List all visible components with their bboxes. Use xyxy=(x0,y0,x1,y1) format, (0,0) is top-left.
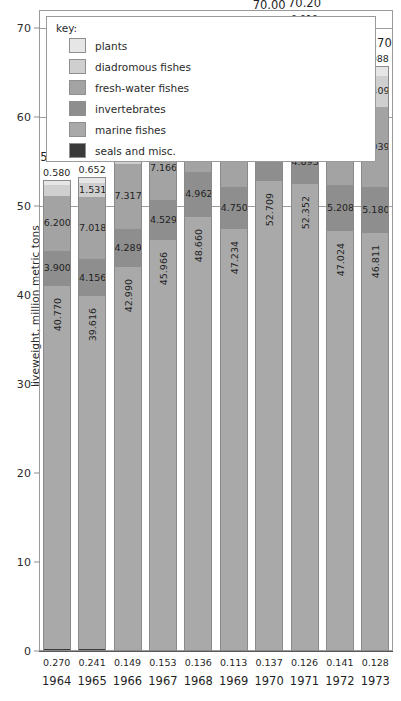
legend-item-plants: plants xyxy=(69,37,127,54)
bar-segment-invertebrates: 4.962 xyxy=(184,172,212,216)
bar-segment-invertebrates: 4.750 xyxy=(220,187,248,229)
segment-value-label: 1.531 xyxy=(79,185,105,195)
segment-value-label: 4.529 xyxy=(150,215,176,225)
bar-segment-invertebrates: 5.180 xyxy=(361,187,389,233)
bar-segment-invertebrates: 4.529 xyxy=(149,200,177,240)
segment-value-label: 47.234 xyxy=(228,241,239,274)
segment-value-label: 46.811 xyxy=(370,245,381,278)
chart-root: liveweight, million metric tons 01020304… xyxy=(0,0,401,701)
bar-segment-plants xyxy=(78,177,106,183)
legend-swatch-icon xyxy=(69,122,86,137)
legend-item-label: fresh-water fishes xyxy=(95,82,189,94)
bar-total-label: 70.20 xyxy=(285,0,325,10)
segment-value-label: 7.018 xyxy=(79,223,105,233)
segment-value-label: 47.024 xyxy=(334,243,345,276)
bar-segment-invertebrates: 4.156 xyxy=(78,259,106,296)
bar-total-label: 70.00 xyxy=(249,0,289,12)
bar-segment-marine-fishes: 39.616 xyxy=(78,296,106,649)
segment-value-label: 4.156 xyxy=(79,273,105,283)
bar-segment-fresh-water-fishes: 7.317 xyxy=(114,164,142,229)
legend-item-seals-and-misc-: seals and misc. xyxy=(69,142,176,159)
legend-swatch-icon xyxy=(69,101,86,116)
segment-value-label: 4.962 xyxy=(185,190,211,200)
segment-value-label: 5.208 xyxy=(327,203,353,213)
bar-segment-marine-fishes: 52.709 xyxy=(255,181,283,650)
legend-item-label: seals and misc. xyxy=(95,145,176,157)
segment-value-label: 3.900 xyxy=(44,264,70,274)
legend-item-label: plants xyxy=(95,40,127,52)
bar-segment-marine-fishes: 47.024 xyxy=(326,231,354,650)
legend-item-fresh-water-fishes: fresh-water fishes xyxy=(69,79,189,96)
bar-segment-marine-fishes: 40.770 xyxy=(43,286,71,649)
segment-value-label: 4.750 xyxy=(221,204,247,214)
legend-title: key: xyxy=(56,22,77,34)
segment-value-label: 4.289 xyxy=(115,243,141,253)
segment-value-label: 6.200 xyxy=(44,219,70,229)
bar-segment-marine-fishes: 48.660 xyxy=(184,217,212,650)
legend-swatch-icon xyxy=(69,80,86,95)
segment-value-label: 40.770 xyxy=(51,298,62,331)
segment-value-label: 42.990 xyxy=(122,279,133,312)
legend-item-diadromous-fishes: diadromous fishes xyxy=(69,58,191,75)
bar-segment-marine-fishes: 47.234 xyxy=(220,229,248,650)
legend-swatch-icon xyxy=(69,38,86,53)
legend-item-label: diadromous fishes xyxy=(95,61,191,73)
legend-swatch-icon xyxy=(69,143,86,158)
bar-segment-invertebrates: 5.208 xyxy=(326,185,354,231)
segment-value-label: 52.709 xyxy=(264,193,275,226)
bar-segment-fresh-water-fishes: 6.200 xyxy=(43,196,71,251)
bar-segment-plants xyxy=(43,180,71,185)
legend-item-marine-fishes: marine fishes xyxy=(69,121,166,138)
bar-segment-marine-fishes: 46.811 xyxy=(361,233,389,650)
segment-value-label: 5.180 xyxy=(362,205,388,215)
bar-segment-marine-fishes: 45.966 xyxy=(149,240,177,649)
bar-segment-diadromous-fishes: 1.531 xyxy=(78,183,106,197)
bar-segment-marine-fishes: 42.990 xyxy=(114,267,142,650)
plants-value-label: 0.652 xyxy=(74,164,110,175)
plants-value-label: 0.580 xyxy=(39,167,75,178)
legend-item-label: invertebrates xyxy=(95,103,166,115)
segment-value-label: 7.166 xyxy=(150,163,176,173)
bar-segment-invertebrates: 3.900 xyxy=(43,251,71,286)
legend-swatch-icon xyxy=(69,59,86,74)
bar-segment-fresh-water-fishes: 7.018 xyxy=(78,197,106,259)
segment-value-label: 7.317 xyxy=(115,191,141,201)
segment-value-label: 39.616 xyxy=(87,308,98,341)
legend: key: plantsdiadromous fishesfresh-water … xyxy=(46,16,376,162)
bar-segment-marine-fishes: 52.352 xyxy=(291,184,319,650)
bar-segment-diadromous-fishes xyxy=(43,185,71,196)
legend-item-label: marine fishes xyxy=(95,124,166,136)
segment-value-label: 52.352 xyxy=(299,196,310,229)
legend-item-invertebrates: invertebrates xyxy=(69,100,166,117)
segment-value-label: 48.660 xyxy=(193,229,204,262)
segment-value-label: 45.966 xyxy=(157,252,168,285)
bar-segment-invertebrates: 4.289 xyxy=(114,229,142,267)
